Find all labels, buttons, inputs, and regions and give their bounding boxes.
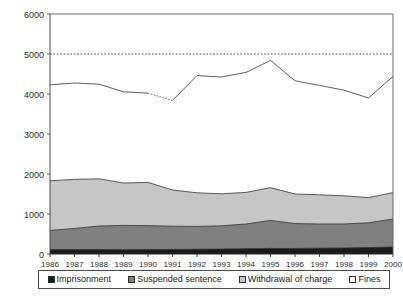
y-tick-label-6000: 6000: [24, 10, 44, 20]
stacked-area-chart: 0100020003000400050006000198619871988198…: [0, 0, 403, 296]
legend-swatch-suspended-sentence: [128, 276, 135, 283]
y-tick-label-1000: 1000: [24, 210, 44, 220]
legend-label-suspended-sentence: Suspended sentence: [137, 275, 222, 284]
y-axis: 0100020003000400050006000: [24, 10, 50, 260]
legend-item-suspended-sentence: Suspended sentence: [128, 275, 222, 284]
legend-swatch-fines: [349, 276, 356, 283]
x-tick-label-1991: 1991: [164, 260, 182, 269]
legend-swatch-imprisonment: [48, 276, 55, 283]
y-tick-label-5000: 5000: [24, 50, 44, 60]
chart-container: 0100020003000400050006000198619871988198…: [0, 0, 403, 296]
y-tick-label-3000: 3000: [24, 130, 44, 140]
x-tick-label-1995: 1995: [262, 260, 280, 269]
y-tick-label-4000: 4000: [24, 90, 44, 100]
legend-label-fines: Fines: [358, 275, 380, 284]
legend-item-withdrawal-of-charge: Withdrawal of charge: [239, 275, 333, 284]
legend-label-imprisonment: Imprisonment: [57, 275, 112, 284]
y-tick-label-0: 0: [39, 250, 44, 260]
x-tick-label-1989: 1989: [115, 260, 133, 269]
legend-item-imprisonment: Imprisonment: [48, 275, 112, 284]
x-tick-label-1996: 1996: [286, 260, 304, 269]
legend-swatch-withdrawal-of-charge: [239, 276, 246, 283]
legend-label-withdrawal-of-charge: Withdrawal of charge: [248, 275, 333, 284]
y-tick-label-2000: 2000: [24, 170, 44, 180]
x-tick-label-1994: 1994: [237, 260, 255, 269]
x-tick-label-1992: 1992: [188, 260, 206, 269]
x-tick-label-1997: 1997: [311, 260, 329, 269]
x-tick-label-1993: 1993: [213, 260, 231, 269]
x-tick-label-1998: 1998: [335, 260, 353, 269]
x-tick-label-1987: 1987: [66, 260, 84, 269]
x-tick-label-2000: 2000: [384, 260, 402, 269]
x-tick-label-1990: 1990: [139, 260, 157, 269]
x-tick-label-1986: 1986: [41, 260, 59, 269]
x-axis: 1986198719881989199019911992199319941995…: [41, 254, 402, 269]
legend-item-fines: Fines: [349, 275, 380, 284]
x-tick-label-1999: 1999: [360, 260, 378, 269]
x-tick-label-1988: 1988: [90, 260, 108, 269]
chart-legend: Imprisonment Suspended sentence Withdraw…: [38, 270, 390, 289]
